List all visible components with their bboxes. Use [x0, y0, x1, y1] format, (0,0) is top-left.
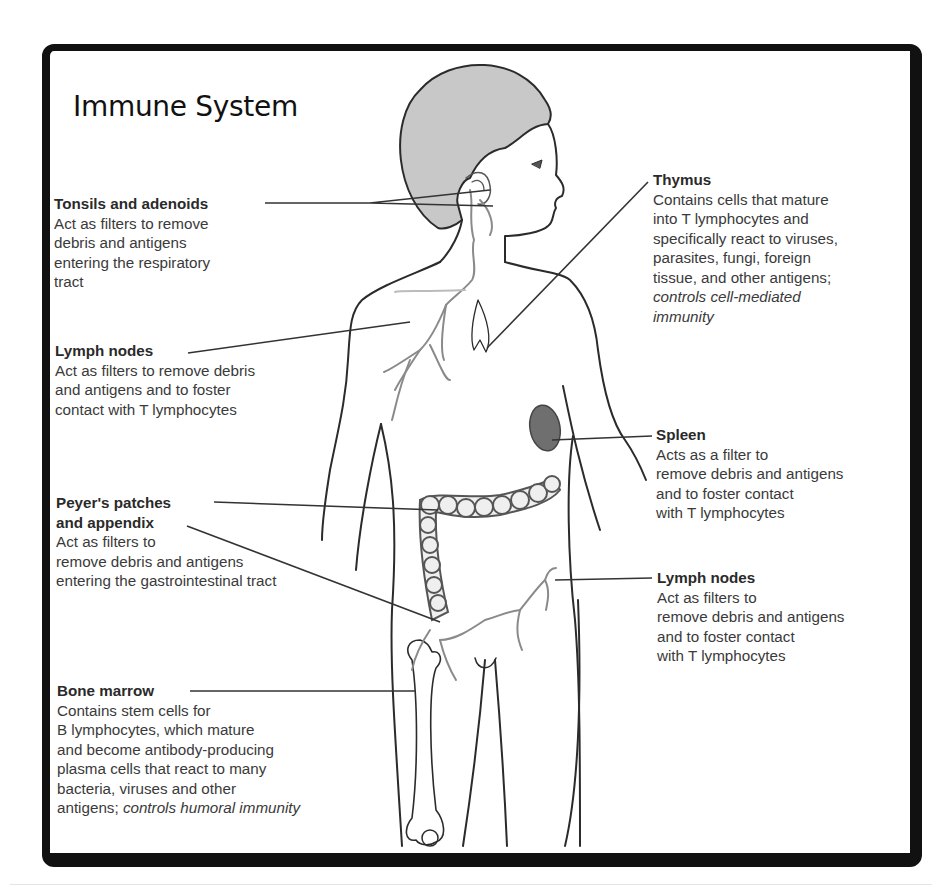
- label-heading: Thymus: [653, 170, 838, 190]
- label-heading: Lymph nodes: [55, 341, 255, 361]
- label-peyers-patches: Peyer's patches and appendix Act as filt…: [56, 493, 276, 591]
- label-heading: Bone marrow: [57, 681, 300, 701]
- label-spleen: Spleen Acts as a filter to remove debris…: [656, 425, 843, 523]
- label-heading: Peyer's patches: [56, 493, 276, 513]
- lymphatic-vessels: [384, 190, 556, 680]
- label-body: Act as filters to remove debris and anti…: [56, 532, 276, 591]
- label-heading: Lymph nodes: [657, 568, 844, 588]
- label-heading: Spleen: [656, 425, 843, 445]
- label-lymph-nodes-upper: Lymph nodes Act as filters to remove deb…: [55, 341, 255, 419]
- leader-lines: [187, 182, 652, 691]
- right-leg-inner: [495, 660, 507, 846]
- colon: [420, 476, 560, 620]
- label-body-italic: controls cell-mediated immunity: [653, 287, 838, 326]
- label-body: Act as filters to remove debris and anti…: [657, 588, 844, 666]
- left-leg-inner: [463, 660, 485, 846]
- leader-lymph-right: [555, 578, 652, 580]
- label-heading-2: and appendix: [56, 513, 276, 533]
- label-lymph-nodes-lower: Lymph nodes Act as filters to remove deb…: [657, 568, 844, 666]
- label-thymus: Thymus Contains cells that mature into T…: [653, 170, 838, 326]
- thymus-organ: [472, 300, 489, 352]
- label-body: Acts as a filter to remove debris and an…: [656, 445, 843, 523]
- label-body: Contains cells that mature into T lympho…: [653, 190, 838, 288]
- label-heading: Tonsils and adenoids: [54, 194, 210, 214]
- left-inner-arm: [356, 424, 381, 570]
- label-tonsils-adenoids: Tonsils and adenoids Act as filters to r…: [54, 194, 210, 292]
- label-body-italic: controls humoral immunity: [123, 799, 300, 816]
- label-body: Act as filters to remove debris and anti…: [54, 214, 210, 292]
- label-bone-marrow: Bone marrow Contains stem cells for B ly…: [57, 681, 300, 818]
- eye: [532, 160, 542, 168]
- face-outline: [505, 124, 564, 262]
- label-body: Act as filters to remove debris and anti…: [55, 361, 255, 420]
- right-leg-outer: [565, 600, 579, 846]
- spleen-organ: [526, 403, 564, 454]
- leader-thymus: [487, 182, 648, 348]
- leader-spleen: [552, 436, 652, 440]
